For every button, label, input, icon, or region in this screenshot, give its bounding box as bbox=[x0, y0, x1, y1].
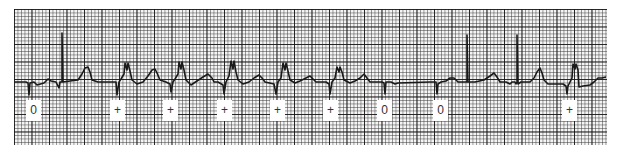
beat-label-4: + bbox=[270, 100, 285, 121]
beat-label-3: + bbox=[217, 100, 232, 121]
beat-label-5: + bbox=[323, 100, 338, 121]
beat-label-6: 0 bbox=[377, 100, 392, 121]
beat-label-0: 0 bbox=[26, 100, 41, 121]
ecg-trace bbox=[0, 0, 623, 154]
beat-label-2: + bbox=[163, 100, 178, 121]
beat-label-8: + bbox=[562, 100, 577, 121]
beat-label-7: 0 bbox=[433, 100, 448, 121]
beat-label-1: + bbox=[110, 100, 125, 121]
